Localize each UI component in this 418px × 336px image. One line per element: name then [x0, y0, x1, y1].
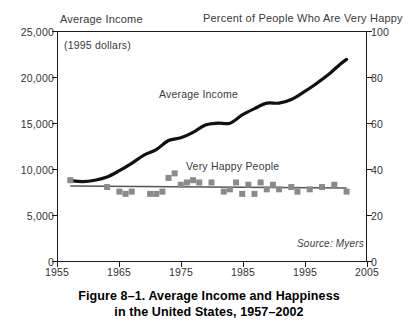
x-tick-label-1965: 1965	[107, 266, 131, 278]
right-tick-label-60: 60	[371, 118, 383, 130]
figure-container: Average Income Percent of People Who Are…	[0, 0, 418, 336]
left-tick-label-10000: 10,000	[21, 164, 54, 176]
right-tick-40	[367, 169, 372, 170]
plot-area	[57, 31, 367, 262]
left-tick-label-15000: 15,000	[21, 118, 54, 130]
left-tick-label-20000: 20,000	[21, 72, 54, 84]
x-tick-label-1995: 1995	[293, 266, 317, 278]
source-note: Source: Myers	[297, 238, 364, 249]
caption-line-2: in the United States, 1957–2002	[0, 305, 418, 321]
left-tick-label-5000: 5,000	[27, 210, 54, 222]
series-label-very-happy-people: Very Happy People	[186, 160, 279, 172]
right-tick-label-40: 40	[371, 164, 383, 176]
x-tick-label-1955: 1955	[45, 266, 69, 278]
x-tick-label-1985: 1985	[231, 266, 255, 278]
units-note: (1995 dollars)	[64, 39, 131, 51]
right-tick-label-80: 80	[371, 72, 383, 84]
right-tick-60	[367, 123, 372, 124]
right-axis-title: Percent of People Who Are Very Happy	[203, 12, 403, 24]
series-label-average-income: Average Income	[159, 88, 238, 100]
right-tick-20	[367, 215, 372, 216]
x-tick-label-2005: 2005	[355, 266, 379, 278]
right-tick-label-100: 100	[371, 26, 389, 38]
figure-caption: Figure 8–1. Average Income and Happiness…	[0, 289, 418, 320]
caption-line-1: Figure 8–1. Average Income and Happiness	[0, 289, 418, 305]
left-axis-title: Average Income	[60, 13, 143, 25]
left-tick-label-25000: 25,000	[21, 26, 54, 38]
right-tick-100	[367, 31, 372, 32]
right-tick-label-20: 20	[371, 210, 383, 222]
x-tick-label-1975: 1975	[169, 266, 193, 278]
right-tick-80	[367, 77, 372, 78]
chart-plot-svg	[58, 32, 365, 260]
